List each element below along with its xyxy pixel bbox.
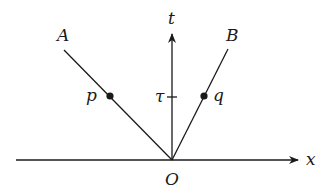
label-x: x [306,149,316,169]
label-a: A [55,25,69,45]
label-t: t [168,8,175,28]
point-q [200,92,207,99]
label-origin: O [165,169,179,189]
label-tau: τ [155,86,165,106]
point-p [106,92,113,99]
label-q: q [213,85,224,105]
label-b: B [225,25,239,45]
spacetime-diagram: t x O τ A B p q [0,0,331,196]
diagram-canvas: t x O τ A B p q [0,0,331,196]
label-p: p [86,85,97,105]
